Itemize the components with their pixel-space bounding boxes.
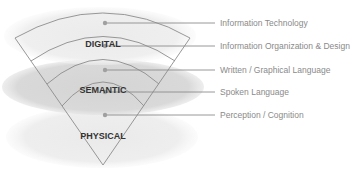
annotation-information-technology: Information Technology xyxy=(220,18,308,28)
annotation-written-language: Written / Graphical Language xyxy=(220,65,331,75)
layer-label-physical: PHYSICAL xyxy=(80,131,126,141)
annotation-information-organization: Information Organization & Design xyxy=(220,41,350,51)
layer-label-digital: DIGITAL xyxy=(85,39,121,49)
dot-icon xyxy=(103,68,107,72)
dot-icon xyxy=(103,21,107,25)
layer-label-semantic: SEMANTIC xyxy=(80,85,128,95)
dot-icon xyxy=(103,113,107,117)
annotation-perception-cognition: Perception / Cognition xyxy=(220,110,304,120)
layers-diagram: DIGITAL SEMANTIC PHYSICAL Information Te… xyxy=(0,0,352,174)
annotation-spoken-language: Spoken Language xyxy=(220,87,289,97)
